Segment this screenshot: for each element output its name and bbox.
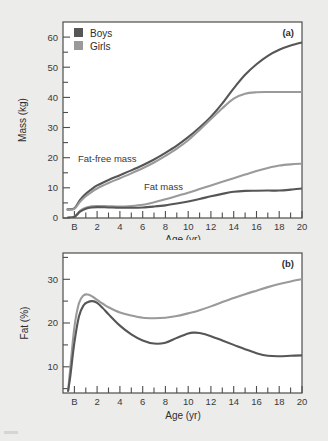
legend-label-girls: Girls [90, 41, 111, 52]
legend-swatch-girls [74, 41, 83, 50]
panel-a-xtick-6: 6 [140, 221, 145, 232]
panel-b-xtick-20: 20 [297, 396, 308, 407]
panel-b-tag: (b) [282, 258, 294, 269]
legend-label-boys: Boys [90, 28, 112, 39]
panel-b-x-ticklabels: B 2 4 6 8 10 12 14 16 18 20 [71, 396, 307, 407]
panel-b-ytick-20: 20 [47, 317, 58, 328]
legend-swatch-boys [74, 28, 83, 37]
panel-b-xtick-12: 12 [206, 396, 217, 407]
panel-b-xtick-8: 8 [163, 396, 168, 407]
panel-b-xtick-14: 14 [228, 396, 239, 407]
panel-b-xtick-B: B [71, 396, 77, 407]
panel-a-ylabel: Mass (kg) [17, 98, 28, 142]
panel-a-xtick-14: 14 [228, 221, 239, 232]
panel-a-xtick-4: 4 [117, 221, 122, 232]
panel-a-xlabel: Age (yr) [165, 234, 201, 240]
panel-a-xtick-10: 10 [183, 221, 194, 232]
panel-b-y-ticklabels: 10 20 30 [47, 274, 58, 373]
panel-a-xtick-20: 20 [297, 221, 308, 232]
panel-b-xtick-4: 4 [117, 396, 122, 407]
panel-a-ytick-10: 10 [47, 182, 58, 193]
panel-a-ytick-20: 20 [47, 152, 58, 163]
panel-a-ytick-50: 50 [47, 62, 58, 73]
figure-root: (a) 0 10 20 30 40 50 60 [0, 0, 328, 441]
panel-a-xtick-12: 12 [206, 221, 217, 232]
panel-b-xtick-10: 10 [183, 396, 194, 407]
panel-a-xtick-8: 8 [163, 221, 168, 232]
panel-a-xtick-18: 18 [274, 221, 285, 232]
panel-b-ytick-10: 10 [47, 361, 58, 372]
panel-a-ytick-0: 0 [53, 212, 58, 223]
panel-b-ylabel: Fat (%) [19, 307, 30, 340]
panel-a-xtick-2: 2 [94, 221, 99, 232]
panel-b-plot-area [63, 253, 302, 393]
panel-a-y-ticklabels: 0 10 20 30 40 50 60 [47, 32, 58, 224]
panel-b-xlabel: Age (yr) [165, 410, 201, 421]
panel-a-xtick-16: 16 [251, 221, 262, 232]
panel-b-fat-percent-chart: (b) 10 20 30 Fat (%) [0, 245, 328, 441]
panel-b-xtick-2: 2 [94, 396, 99, 407]
annotation-fat-free-mass: Fat-free mass [78, 153, 137, 164]
panel-b-xtick-6: 6 [140, 396, 145, 407]
panel-b-ytick-30: 30 [47, 274, 58, 285]
panel-a-ytick-30: 30 [47, 122, 58, 133]
panel-a-tag: (a) [282, 27, 294, 38]
panel-b-xtick-18: 18 [274, 396, 285, 407]
panel-a-xtick-B: B [71, 221, 77, 232]
panel-b-xtick-16: 16 [251, 396, 262, 407]
annotation-fat-mass: Fat mass [144, 181, 183, 192]
panel-a-mass-chart: (a) 0 10 20 30 40 50 60 [0, 0, 328, 240]
panel-a-ytick-40: 40 [47, 92, 58, 103]
caption-stub-artifact [4, 431, 18, 434]
panel-a-ytick-60: 60 [47, 32, 58, 43]
panel-a-x-ticklabels: B 2 4 6 8 10 12 14 16 18 20 [71, 221, 307, 232]
